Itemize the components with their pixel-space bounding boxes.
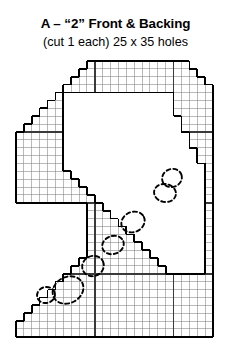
mark-lower-left-small: [35, 285, 57, 305]
pattern-page: A – “2” Front & Backing (cut 1 each) 25 …: [0, 0, 231, 353]
pattern-outline: [16, 61, 213, 337]
page-title: A – “2” Front & Backing: [0, 0, 231, 31]
mark-diagonal-1: [118, 208, 148, 236]
heading-block: A – “2” Front & Backing (cut 1 each) 25 …: [0, 0, 231, 49]
mark-upper-right-cluster: [160, 166, 185, 190]
annotation-marks: [35, 166, 184, 309]
grid-major-lines: [16, 61, 213, 337]
pattern-diagram: [0, 0, 231, 353]
mark-diagonal-3: [79, 252, 107, 279]
mark-lower-left-large: [48, 271, 88, 309]
page-subtitle: (cut 1 each) 25 x 35 holes: [0, 31, 231, 49]
numeral-two-grid-svg: [0, 0, 231, 353]
mark-upper-right-lower: [153, 182, 178, 204]
grid-minor-lines: [16, 61, 213, 337]
mark-diagonal-2: [100, 233, 127, 257]
